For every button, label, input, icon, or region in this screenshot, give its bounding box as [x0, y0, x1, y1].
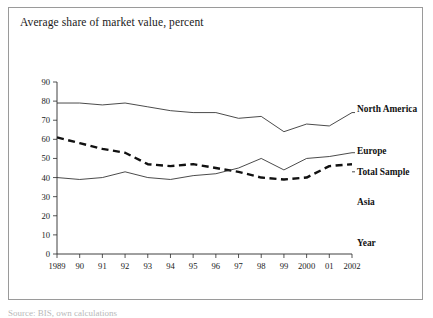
chart-title: Average share of market value, percent: [20, 16, 204, 28]
series-label-year: Year: [357, 238, 376, 248]
bottom-caption: Source: BIS, own calculations: [8, 308, 268, 318]
series-label-total-sample: Total Sample: [357, 167, 410, 177]
series-label-asia: Asia: [357, 197, 375, 207]
series-label-europe: Europe: [357, 146, 387, 156]
series-label-north-america: North America: [357, 104, 417, 114]
